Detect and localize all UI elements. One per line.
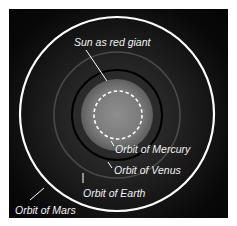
venus-label: Orbit of Venus bbox=[114, 164, 181, 176]
mars-leader-line bbox=[30, 188, 44, 200]
mars-label: Orbit of Mars bbox=[15, 204, 76, 216]
venus-leader-line bbox=[108, 162, 112, 168]
earth-label: Orbit of Earth bbox=[83, 187, 146, 199]
mercury-label: Orbit of Mercury bbox=[115, 143, 191, 155]
sun-label: Sun as red giant bbox=[74, 36, 152, 48]
solar-orbits-diagram: Sun as red giant Orbit of Mercury Orbit … bbox=[0, 0, 237, 226]
